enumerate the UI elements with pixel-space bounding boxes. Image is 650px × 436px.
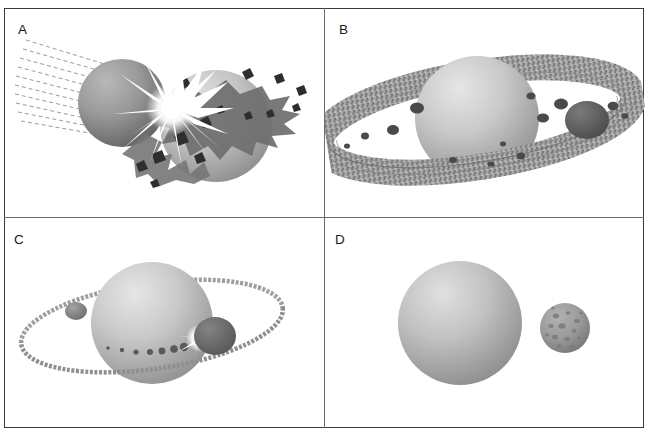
- panel-b: B: [325, 8, 645, 217]
- panel-b-illustration: B: [325, 8, 645, 217]
- panel-a-illustration: A: [4, 8, 324, 217]
- panel-a: A: [4, 8, 324, 217]
- panel-label-d: D: [335, 232, 345, 247]
- panel-c: C: [4, 218, 324, 427]
- figure-root: A: [0, 0, 650, 436]
- planet-body: [398, 261, 522, 385]
- panel-d: D: [325, 218, 645, 427]
- panel-label-a: A: [18, 22, 27, 37]
- moon-body: [540, 303, 590, 353]
- panel-d-illustration: D: [325, 218, 645, 427]
- planet-body: [91, 262, 213, 384]
- moonlet-large: [194, 317, 236, 355]
- panel-label-c: C: [14, 232, 24, 247]
- coalescing-moonlet: [565, 101, 609, 139]
- panel-label-b: B: [339, 22, 348, 37]
- moonlet-small: [65, 302, 87, 320]
- panel-c-illustration: C: [4, 218, 324, 427]
